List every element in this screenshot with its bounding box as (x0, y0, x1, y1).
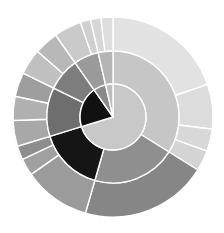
sunburst-chart (0, 0, 224, 233)
sunburst-svg (0, 0, 224, 233)
ring-inner (80, 84, 146, 150)
